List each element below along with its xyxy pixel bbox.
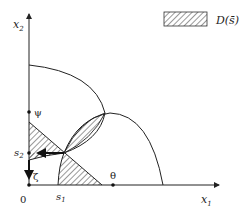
psi-label: ψ [34, 107, 42, 118]
origin-label: 0 [20, 194, 26, 205]
x-axis-label: x1 [201, 193, 212, 208]
legend-swatch [164, 12, 207, 26]
legend-label: D(s̄) [215, 14, 239, 27]
psi-point [27, 110, 31, 114]
diagram-figure: D(s̄) x2 x1 0 ψ s2 ζ θ s1 [0, 0, 247, 211]
s2-point [27, 151, 31, 155]
y-axis-label: x2 [13, 18, 24, 33]
zeta-label: ζ [33, 171, 39, 182]
axes [29, 14, 219, 185]
s1-label: s1 [56, 191, 66, 204]
theta-label: θ [110, 170, 116, 181]
theta-point [111, 183, 115, 187]
legend: D(s̄) [164, 12, 239, 27]
s2-label: s2 [14, 147, 24, 160]
origin-point [27, 183, 31, 187]
hatched-region-d [29, 113, 105, 185]
